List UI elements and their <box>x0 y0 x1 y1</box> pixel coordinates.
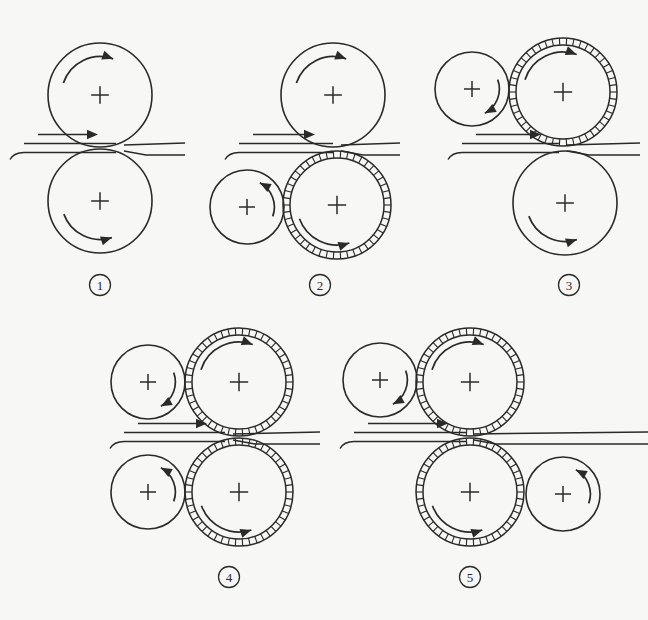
top-work-roll-rotation-arrow <box>63 51 113 83</box>
bottom-small-side-roll-center-cross <box>239 199 255 215</box>
bottom-small-side-roll-center-cross <box>140 484 156 500</box>
panel5-label: 5 <box>460 567 481 588</box>
top-small-side-roll <box>343 343 417 417</box>
bottom-hatched-roll <box>185 438 293 546</box>
bottom-small-side-roll <box>210 170 284 244</box>
bottom-work-roll <box>513 151 617 255</box>
panel5-strip-exit-top <box>474 432 648 434</box>
bottom-hatched-roll-center-cross <box>461 483 479 501</box>
panel3-strip-exit-bottom <box>567 151 640 155</box>
top-hatched-roll-rotation-arrow <box>201 336 253 369</box>
top-small-side-roll-rotation-arrow <box>161 373 176 407</box>
bottom-hatched-roll-rotation-arrow <box>299 219 349 251</box>
top-hatched-roll-rotation-arrow <box>432 336 484 369</box>
panel5-label-number: 5 <box>467 570 474 585</box>
panel2-strip-exit-bottom <box>341 151 400 155</box>
top-work-roll <box>48 43 152 147</box>
panel4-label: 4 <box>219 567 240 588</box>
top-small-side-roll <box>435 52 509 126</box>
top-small-side-roll-center-cross <box>372 372 388 388</box>
bottom-work-roll-rotation-arrow <box>529 216 577 247</box>
top-hatched-roll-center-cross <box>554 83 572 101</box>
bottom-small-side-roll-center-cross <box>555 486 571 502</box>
bottom-small-side-roll <box>526 457 600 531</box>
bottom-small-side-roll-rotation-arrow <box>161 468 176 502</box>
panel2-label: 2 <box>310 275 331 296</box>
panel2-strip-exit-top <box>341 143 400 145</box>
panel1-strip-exit-top <box>124 143 185 145</box>
panel1-feed-arrow-head <box>87 130 98 140</box>
panel4: 4 <box>110 328 320 588</box>
top-small-side-roll-center-cross <box>464 81 480 97</box>
bottom-hatched-roll <box>416 438 524 546</box>
bottom-hatched-roll-center-cross <box>230 483 248 501</box>
panel2-strip <box>225 130 400 160</box>
top-work-roll-center-cross <box>91 86 109 104</box>
top-work-roll <box>281 43 385 147</box>
panel3: 3 <box>435 38 640 296</box>
panel1: 1 <box>10 43 185 296</box>
panel1-strip-entry-bottom <box>10 153 116 160</box>
top-small-side-roll-rotation-arrow <box>485 80 500 114</box>
bottom-work-roll <box>48 149 152 253</box>
diagram-canvas: 12345 <box>0 0 648 620</box>
panel5: 5 <box>340 328 648 588</box>
top-hatched-roll-center-cross <box>461 373 479 391</box>
top-work-roll-center-cross <box>324 86 342 104</box>
panel2-feed-arrow-head <box>304 130 315 140</box>
top-hatched-roll <box>509 38 617 146</box>
top-work-roll-rotation-arrow <box>296 51 346 83</box>
top-small-side-roll <box>111 345 185 419</box>
bottom-hatched-roll <box>283 151 391 259</box>
bottom-hatched-roll-rotation-arrow <box>432 506 482 538</box>
panel4-strip-exit-bottom <box>233 440 320 444</box>
panel3-label: 3 <box>559 275 580 296</box>
bottom-work-roll-rotation-arrow <box>64 214 112 245</box>
panel1-strip-exit-bottom <box>124 151 185 155</box>
rolling-mill-diagram: 12345 <box>0 0 648 620</box>
top-hatched-roll-center-cross <box>230 373 248 391</box>
panel3-label-number: 3 <box>566 278 573 293</box>
panel2: 2 <box>210 43 400 296</box>
bottom-small-side-roll-rotation-arrow <box>576 470 591 504</box>
panel1-label-number: 1 <box>97 278 104 293</box>
panel1-strip <box>10 130 185 160</box>
panel5-strip-exit-bottom <box>474 440 648 444</box>
top-hatched-roll-rotation-arrow <box>525 46 577 79</box>
panel2-strip-entry-bottom <box>225 153 333 160</box>
top-hatched-roll <box>185 328 293 436</box>
top-small-side-roll-center-cross <box>140 374 156 390</box>
top-hatched-roll <box>416 328 524 436</box>
panel4-strip-exit-top <box>233 432 320 434</box>
panel2-label-number: 2 <box>317 278 324 293</box>
bottom-work-roll-center-cross <box>556 194 574 212</box>
bottom-hatched-roll-rotation-arrow <box>201 506 251 538</box>
panel1-label: 1 <box>90 275 111 296</box>
top-small-side-roll-rotation-arrow <box>393 371 408 405</box>
panel4-label-number: 4 <box>226 570 233 585</box>
bottom-work-roll-center-cross <box>91 192 109 210</box>
bottom-small-side-roll-rotation-arrow <box>260 183 275 217</box>
bottom-hatched-roll-center-cross <box>328 196 346 214</box>
bottom-small-side-roll <box>111 455 185 529</box>
